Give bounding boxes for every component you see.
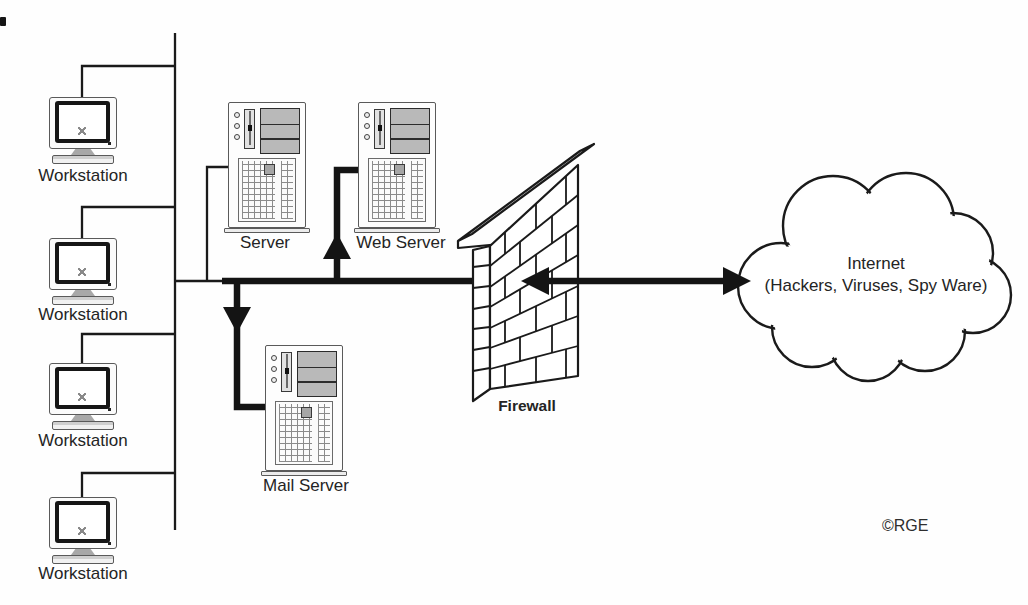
workstation-4-link: [82, 473, 176, 497]
server-icon: [228, 102, 306, 234]
web-server-icon: [358, 102, 436, 234]
server-button: [234, 123, 240, 129]
power-led: [108, 142, 111, 145]
monitor-screen: [55, 101, 110, 143]
monitor-base: [52, 296, 114, 305]
slot-dot: [378, 125, 382, 131]
workstation-label: Workstation: [23, 564, 143, 584]
firewall-side-face: [473, 246, 490, 401]
mail-server-branch: [237, 278, 265, 407]
screen-cursor-mark: [78, 393, 86, 401]
vent-grid: [411, 161, 423, 219]
network-diagram: Workstation Workstation Workstation Work…: [0, 0, 1028, 605]
bay-divider: [261, 124, 299, 126]
internet-cloud-label: Internet (Hackers, Viruses, Spy Ware): [756, 253, 996, 297]
monitor-screen: [55, 367, 110, 409]
monitor-screen: [55, 242, 110, 284]
web-server-branch: [337, 170, 358, 281]
server-button: [271, 377, 277, 383]
firewall-label: Firewall: [477, 397, 577, 415]
drive-slot: [244, 109, 255, 149]
workstation-icon: [49, 238, 117, 306]
internet-label-line1: Internet: [756, 253, 996, 275]
server-button: [234, 134, 240, 140]
mail-server-icon: [265, 345, 343, 477]
bay-divider: [391, 124, 429, 126]
drive-bays: [260, 108, 300, 154]
mail-server-label: Mail Server: [251, 476, 361, 496]
screen-cursor-mark: [78, 127, 86, 135]
workstation-icon: [49, 497, 117, 565]
slot-dot: [248, 125, 252, 131]
bay-divider: [298, 381, 336, 383]
badge-chip: [264, 164, 275, 175]
workstation-icon: [49, 97, 117, 165]
monitor-base: [52, 421, 114, 430]
copyright-credit: ©RGE: [882, 517, 928, 535]
drive-slot: [281, 352, 292, 392]
firewall-icon: [458, 144, 594, 401]
drive-slot: [374, 109, 385, 149]
server-button: [271, 366, 277, 372]
web-server-label: Web Server: [346, 233, 456, 253]
badge-chip: [394, 164, 405, 175]
workstation-3-link: [82, 334, 176, 363]
monitor-base: [52, 555, 114, 564]
workstation-label: Workstation: [23, 305, 143, 325]
drive-bays: [390, 108, 430, 154]
workstation-label: Workstation: [23, 431, 143, 451]
slot-dot: [285, 368, 289, 374]
workstation-icon: [49, 363, 117, 431]
power-led: [108, 542, 111, 545]
server-button: [364, 123, 370, 129]
workstation-2-link: [82, 207, 176, 238]
power-led: [108, 283, 111, 286]
internet-label-line2: (Hackers, Viruses, Spy Ware): [756, 275, 996, 297]
server-button: [364, 112, 370, 118]
screen-cursor-mark: [78, 527, 86, 535]
workstation-1-link: [82, 66, 176, 97]
vent-grid: [281, 161, 293, 219]
vent-grid: [318, 404, 330, 462]
power-led: [108, 408, 111, 411]
arrow-down-to-mail-server: [223, 307, 251, 333]
workstation-label: Workstation: [23, 166, 143, 186]
scan-artifact: [0, 17, 6, 26]
server-link: [207, 167, 228, 282]
bay-divider: [261, 138, 299, 140]
vent-panel: [368, 158, 426, 222]
monitor-base: [52, 155, 114, 164]
server-label: Server: [215, 233, 315, 253]
server-button: [364, 134, 370, 140]
diagram-lines-layer: [0, 0, 1028, 605]
vent-panel: [238, 158, 296, 222]
vent-panel: [275, 401, 333, 465]
server-button: [234, 112, 240, 118]
monitor-screen: [55, 501, 110, 543]
screen-cursor-mark: [78, 268, 86, 276]
badge-chip: [301, 407, 312, 418]
server-button: [271, 355, 277, 361]
drive-bays: [297, 351, 337, 397]
bay-divider: [298, 367, 336, 369]
bay-divider: [391, 138, 429, 140]
